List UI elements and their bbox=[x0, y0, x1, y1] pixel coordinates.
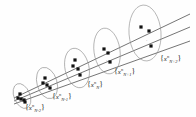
point-marker bbox=[139, 25, 142, 28]
characteristic-line-middle bbox=[14, 27, 190, 101]
point-marker bbox=[19, 97, 22, 100]
point-marker bbox=[78, 73, 81, 76]
point-marker bbox=[76, 67, 79, 70]
characteristic-line-lower bbox=[14, 41, 190, 104]
tick-note-a: · bbox=[106, 58, 107, 63]
point-marker bbox=[149, 44, 152, 47]
point-marker bbox=[108, 60, 111, 63]
label-cluster-n-minus-2: {xnN-2} bbox=[25, 104, 45, 112]
point-marker bbox=[43, 76, 46, 79]
point-marker bbox=[106, 51, 109, 54]
figure-root: {xnN-2}{xnN-1}{xnN}{xnN+1}{xnN+2} ·· bbox=[0, 0, 196, 117]
ellipse-cluster-n-plus-2 bbox=[127, 4, 163, 62]
point-marker bbox=[48, 86, 51, 89]
point-marker bbox=[147, 29, 150, 32]
point-marker bbox=[18, 92, 21, 95]
label-cluster-n-plus-1: {xnN+1} bbox=[114, 68, 135, 76]
point-marker bbox=[73, 58, 76, 61]
point-marker bbox=[102, 47, 105, 50]
label-cluster-n-minus-1: {xnN-1} bbox=[52, 93, 72, 101]
point-marker bbox=[16, 96, 19, 99]
point-marker bbox=[41, 81, 44, 84]
point-marker bbox=[71, 64, 74, 67]
point-marker bbox=[45, 83, 48, 86]
label-cluster-n-plus-2: {xnN+2} bbox=[160, 55, 181, 63]
cluster-ellipses-group bbox=[10, 4, 163, 111]
tick-note-b: · bbox=[146, 38, 147, 43]
label-cluster-n: {xnN} bbox=[87, 81, 103, 89]
